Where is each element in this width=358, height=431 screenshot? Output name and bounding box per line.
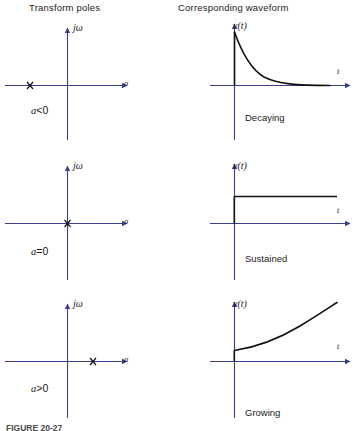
waveform-caption-sustained: Sustained [245,253,287,264]
sustained-step-curve [234,197,337,224]
figure-caption: FIGURE 20-27 [6,423,62,431]
jomega-axis-label: jω [73,22,83,33]
t-axis-label: t [337,341,339,351]
waveform-plot-growing [210,302,350,418]
figure-container: Transform poles Corresponding waveform j… [0,0,358,431]
waveform-caption-decaying: Decaying [245,112,285,123]
pole-plot-growing [5,304,127,418]
t-axis-label: t [337,205,339,215]
growing-exponential-curve [234,303,337,351]
column-heading-corresponding-waveform: Corresponding waveform [178,2,289,13]
pole-condition-label: a=0 [31,245,48,257]
decaying-exponential-curve [235,32,331,86]
figure-graphics [0,0,358,431]
pole-condition-label: a<0 [31,104,48,116]
sigma-axis-label: σ [124,78,128,88]
condition-value: 0 [42,245,48,257]
vt-axis-label: v(t) [233,160,247,171]
column-heading-transform-poles: Transform poles [29,2,100,13]
sigma-axis-label: σ [124,216,128,226]
pole-plot-sustained [5,166,127,280]
jomega-axis-label: jω [73,160,83,171]
vt-axis-label: v(t) [233,298,247,309]
sigma-axis-label: σ [124,354,128,364]
condition-value: 0 [42,104,48,116]
condition-value: 0 [42,382,48,394]
waveform-caption-growing: Growing [245,407,280,418]
t-axis-label: t [337,66,339,76]
vt-axis-label: v(t) [233,20,247,31]
jomega-axis-label: jω [73,298,83,309]
pole-condition-label: a>0 [31,382,48,394]
pole-plot-decaying [5,28,127,140]
